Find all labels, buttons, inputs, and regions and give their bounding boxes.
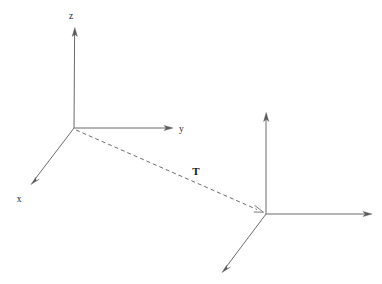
axis-label-z: z [69, 11, 73, 21]
axis-x: x [17, 128, 74, 204]
axis-x-arrowhead-icon [31, 177, 39, 184]
axis-label-y: y [179, 124, 184, 134]
translation-vector-arrowhead-icon [254, 205, 264, 212]
axis-x-line [36, 128, 75, 179]
axis-z-line [74, 33, 75, 128]
axis-z-prime [264, 113, 269, 215]
coordinate-transformation-diagram: z y x T [0, 0, 382, 284]
axis-label-x: x [17, 194, 22, 204]
reference-frame: z y x [17, 11, 184, 204]
transformed-frame [222, 113, 372, 273]
translation-vector-label: T [192, 165, 200, 177]
translation-vector-T: T [76, 130, 264, 212]
axis-x-prime-line [227, 214, 267, 267]
axis-y-prime [266, 211, 372, 216]
figure-canvas: z y x T [0, 0, 382, 284]
axis-y: y [74, 124, 184, 134]
axis-z: z [69, 11, 78, 128]
translation-vector-line [76, 130, 257, 210]
axis-x-prime-arrowhead-icon [222, 265, 230, 272]
axis-x-prime [222, 214, 266, 273]
